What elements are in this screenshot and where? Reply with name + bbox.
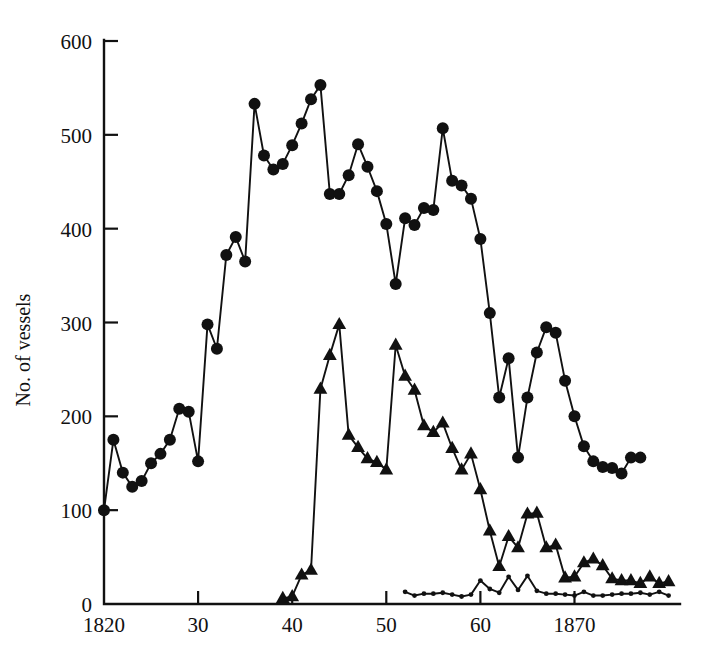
data-point-circle	[98, 504, 110, 516]
data-point-dot	[666, 593, 671, 598]
data-point-circle	[634, 452, 646, 464]
data-point-circle	[361, 161, 373, 173]
data-point-dot	[600, 593, 605, 598]
data-point-circle	[286, 139, 298, 151]
data-point-dot	[591, 593, 596, 598]
x-tick-label: 30	[188, 613, 209, 637]
data-point-circle	[390, 278, 402, 290]
data-point-circle	[427, 204, 439, 216]
data-point-circle	[559, 375, 571, 387]
data-point-dot	[487, 587, 492, 592]
data-point-dot	[412, 593, 417, 598]
x-tick-label: 60	[470, 613, 491, 637]
y-tick-label: 100	[61, 499, 93, 523]
data-point-dot	[422, 591, 427, 596]
data-point-dot	[516, 588, 521, 593]
data-point-circle	[192, 455, 204, 467]
data-point-circle	[371, 185, 383, 197]
data-point-dot	[544, 591, 549, 596]
data-point-circle	[164, 434, 176, 446]
data-point-dot	[450, 592, 455, 597]
data-point-dot	[563, 592, 568, 597]
chart-background	[0, 0, 702, 668]
y-tick-label: 400	[61, 218, 93, 242]
data-point-circle	[512, 452, 524, 464]
data-point-circle	[258, 149, 270, 161]
data-point-dot	[619, 591, 624, 596]
y-tick-label: 500	[61, 124, 93, 148]
data-point-circle	[249, 98, 261, 110]
data-point-circle	[333, 188, 345, 200]
data-point-circle	[183, 406, 195, 418]
data-point-circle	[550, 327, 562, 339]
data-point-circle	[107, 434, 119, 446]
data-point-dot	[459, 594, 464, 599]
data-point-dot	[525, 573, 530, 578]
data-point-circle	[211, 343, 223, 355]
data-point-dot	[647, 592, 652, 597]
data-point-circle	[380, 218, 392, 230]
data-point-circle	[220, 249, 232, 261]
vessels-line-chart: 1820304050601870 0100200300400500600 No.…	[0, 0, 702, 668]
data-point-dot	[638, 590, 643, 595]
data-point-dot	[657, 589, 662, 594]
data-point-dot	[469, 592, 474, 597]
data-point-dot	[553, 591, 558, 596]
data-point-circle	[343, 169, 355, 181]
data-point-circle	[136, 475, 148, 487]
data-point-circle	[503, 352, 515, 364]
x-tick-label: 40	[282, 613, 303, 637]
data-point-circle	[145, 457, 157, 469]
data-point-circle	[578, 440, 590, 452]
data-point-dot	[431, 591, 436, 596]
data-point-circle	[474, 233, 486, 245]
data-point-circle	[277, 158, 289, 170]
y-tick-label: 200	[61, 405, 93, 429]
data-point-circle	[296, 118, 308, 130]
data-point-circle	[484, 307, 496, 319]
data-point-circle	[465, 193, 477, 205]
data-point-dot	[403, 589, 408, 594]
data-point-circle	[239, 256, 251, 268]
data-point-circle	[531, 347, 543, 359]
data-point-circle	[616, 468, 628, 480]
data-point-circle	[314, 79, 326, 91]
data-point-dot	[478, 578, 483, 583]
data-point-circle	[409, 219, 421, 231]
data-point-circle	[117, 467, 129, 479]
data-point-dot	[440, 590, 445, 595]
data-point-circle	[456, 180, 468, 192]
data-point-circle	[352, 138, 364, 150]
y-tick-label: 300	[61, 312, 93, 336]
data-point-circle	[493, 392, 505, 404]
data-point-circle	[305, 93, 317, 105]
data-point-circle	[202, 318, 214, 330]
data-point-dot	[629, 591, 634, 596]
data-point-dot	[497, 590, 502, 595]
y-tick-label: 0	[82, 593, 93, 617]
data-point-circle	[230, 231, 242, 243]
y-tick-label: 600	[61, 30, 93, 54]
data-point-dot	[534, 588, 539, 593]
x-tick-label: 50	[376, 613, 397, 637]
data-point-dot	[506, 574, 511, 579]
data-point-dot	[582, 589, 587, 594]
data-point-circle	[568, 410, 580, 422]
data-point-dot	[610, 592, 615, 597]
data-point-circle	[437, 122, 449, 134]
y-axis-title: No. of vessels	[12, 293, 34, 406]
data-point-circle	[154, 448, 166, 460]
data-point-dot	[572, 593, 577, 598]
figure-container: 1820304050601870 0100200300400500600 No.…	[0, 0, 702, 668]
x-tick-label: 1870	[553, 613, 595, 637]
data-point-circle	[521, 392, 533, 404]
